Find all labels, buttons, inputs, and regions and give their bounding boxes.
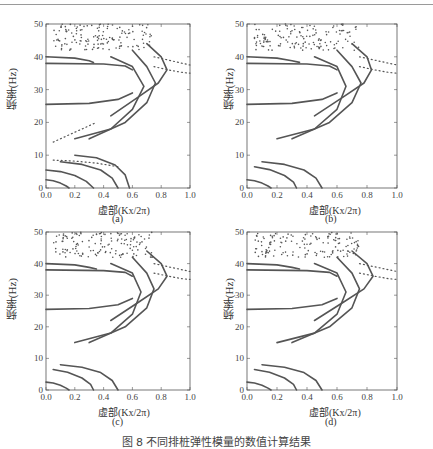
curve-band-flat-25.5	[46, 298, 132, 309]
x-tick-label: 0.4	[301, 392, 313, 402]
curve-band-0-low-1	[247, 180, 271, 188]
plot-a: 0.00.20.40.60.81.001020304050	[0, 8, 216, 218]
curve-dotted-high-2	[154, 67, 190, 74]
panel-a: 0.00.20.40.60.81.001020304050 频率(Hz) 虚部(…	[0, 8, 216, 218]
y-tick-label: 0	[240, 183, 245, 193]
x-tick-label: 0.8	[156, 190, 168, 200]
curve-band-0-low-1	[247, 382, 271, 390]
ylabel-b: 频率(Hz)	[221, 68, 237, 110]
y-tick-label: 30	[34, 290, 44, 300]
y-tick-label: 40	[34, 259, 44, 269]
y-tick-label: 0	[240, 385, 245, 395]
y-tick-label: 50	[34, 19, 44, 29]
y-tick-label: 20	[235, 117, 245, 127]
ylabel-a: 频率(Hz)	[4, 68, 20, 110]
x-tick-label: 1.0	[391, 190, 403, 200]
curve-band-flat-40	[46, 57, 94, 63]
x-tick-label: 0.8	[361, 392, 373, 402]
x-tick-label: 0.4	[98, 392, 110, 402]
ylabel-c: 频率(Hz)	[4, 278, 20, 320]
xlabel-a: 虚部(Kx/2π)	[98, 202, 150, 217]
x-tick-label: 0.2	[69, 392, 80, 402]
curve-band-0-low-2	[46, 170, 94, 188]
top-rule	[0, 4, 433, 5]
xlabel-c: 虚部(Kx/2π)	[98, 404, 150, 419]
x-tick-label: 0.2	[271, 392, 282, 402]
sublabel-d: (d)	[325, 416, 337, 427]
y-tick-label: 0	[39, 385, 44, 395]
panel-b: 0.00.20.40.60.81.001020304050 频率(Hz) 虚部(…	[217, 8, 433, 218]
panel-d: 0.00.20.40.60.81.001020304050 频率(Hz) 虚部(…	[217, 218, 433, 428]
y-tick-label: 10	[34, 353, 44, 363]
curve-band-flat-25.5	[46, 93, 132, 105]
curve-band-0-low-3	[262, 162, 322, 188]
y-tick-label: 20	[34, 322, 44, 332]
curve-band-flat-38	[247, 270, 337, 276]
figure-caption: 图 8 不同排桩弹性模量的数值计算结果	[0, 433, 433, 449]
y-tick-label: 10	[235, 150, 245, 160]
x-tick-label: 0.8	[156, 392, 168, 402]
curve-band-flat-40	[247, 264, 300, 269]
curve-band-0-low-2	[255, 167, 297, 188]
y-tick-label: 50	[34, 227, 44, 237]
y-tick-label: 40	[34, 52, 44, 62]
y-tick-label: 20	[34, 117, 44, 127]
y-tick-label: 50	[235, 19, 245, 29]
y-tick-label: 50	[235, 227, 245, 237]
curve-band-flat-38	[247, 63, 337, 70]
x-tick-label: 1.0	[184, 190, 196, 200]
y-tick-label: 0	[39, 183, 44, 193]
x-tick-label: 0.6	[127, 392, 139, 402]
curve-dotted-high-2	[360, 67, 398, 74]
x-tick-label: 0.4	[301, 190, 313, 200]
curve-band-0-low-2	[53, 370, 93, 391]
curve-band-0-low-3	[262, 365, 322, 390]
curve-loop-3	[111, 44, 167, 116]
curve-dotted-high-1	[154, 264, 190, 272]
x-tick-label: 0.6	[331, 190, 343, 200]
plot-b: 0.00.20.40.60.81.001020304050	[217, 8, 433, 218]
y-tick-label: 10	[235, 353, 245, 363]
x-tick-label: 1.0	[184, 392, 196, 402]
curve-dotted-high-1	[154, 57, 190, 65]
curve-band-flat-40	[247, 57, 300, 63]
x-tick-label: 0.2	[271, 190, 282, 200]
ylabel-d: 频率(Hz)	[221, 278, 237, 320]
curve-loop-1	[75, 57, 144, 139]
curve-band-flat-40	[46, 264, 96, 269]
curve-band-0-low-1	[46, 382, 69, 390]
plot-d: 0.00.20.40.60.81.001020304050	[217, 218, 433, 428]
curve-band-flat-38	[46, 270, 132, 276]
x-tick-label: 0.4	[98, 190, 110, 200]
x-tick-label: 1.0	[391, 392, 403, 402]
curve-band-0-low-2	[255, 370, 297, 391]
curve-band-flat-25.5	[247, 93, 337, 105]
curve-dotted-high-1	[360, 264, 398, 272]
curve-dotted-high-2	[360, 273, 398, 279]
plot-c: 0.00.20.40.60.81.001020304050	[0, 218, 216, 428]
y-tick-label: 40	[235, 259, 245, 269]
y-tick-label: 40	[235, 52, 245, 62]
x-tick-label: 0.6	[331, 392, 343, 402]
panel-c: 0.00.20.40.60.81.001020304050 频率(Hz) 虚部(…	[0, 218, 216, 428]
curve-band-flat-25.5	[247, 298, 337, 309]
x-tick-label: 0.6	[127, 190, 139, 200]
y-tick-label: 10	[34, 150, 44, 160]
y-tick-label: 20	[235, 322, 245, 332]
curve-dotted-high-1	[360, 57, 398, 65]
curve-band-0-low-3	[60, 365, 118, 390]
sublabel-c: (c)	[112, 416, 123, 427]
y-tick-label: 30	[34, 85, 44, 95]
curve-band-0-low-1	[46, 180, 69, 188]
x-tick-label: 0.2	[69, 190, 80, 200]
x-tick-label: 0.8	[361, 190, 373, 200]
curve-band-flat-38	[46, 63, 132, 70]
curve-dotted-high-2	[154, 273, 190, 279]
